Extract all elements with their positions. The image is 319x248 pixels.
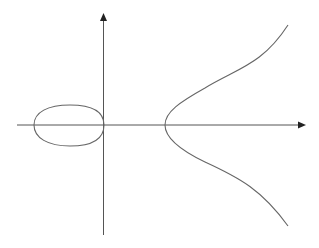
x-axis-arrowhead xyxy=(298,122,306,129)
elliptic-curve-diagram xyxy=(0,0,319,248)
y-axis-arrowhead xyxy=(100,13,107,21)
